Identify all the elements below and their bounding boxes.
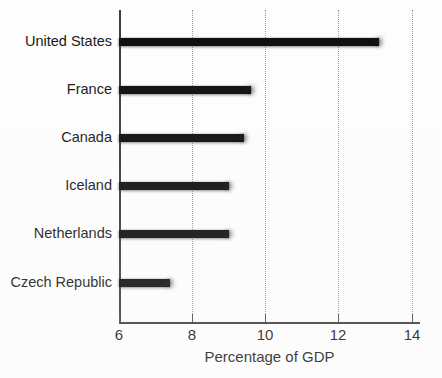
gridline-10 — [265, 10, 267, 322]
x-tick-label-4: 14 — [392, 326, 432, 343]
category-label-czech-republic: Czech Republic — [0, 275, 112, 290]
y-axis-line — [119, 10, 121, 323]
x-axis-title: Percentage of GDP — [119, 348, 420, 365]
x-tick-label-1: 8 — [172, 326, 212, 343]
bar-chart: 6 8 10 12 14 United States France Canada… — [0, 0, 442, 378]
category-label-iceland: Iceland — [0, 178, 112, 193]
x-tick-mark-8 — [192, 314, 193, 322]
bar-czech-republic — [119, 279, 170, 287]
x-tick-mark-12 — [338, 314, 339, 322]
bar-netherlands — [119, 230, 229, 238]
bar-united-states — [119, 38, 379, 46]
gridline-8 — [192, 10, 194, 322]
gridline-14 — [412, 10, 414, 322]
x-tick-label-3: 12 — [318, 326, 358, 343]
x-tick-label-2: 10 — [245, 326, 285, 343]
plot-area: 6 8 10 12 14 United States France Canada… — [0, 0, 442, 378]
x-tick-mark-14 — [412, 314, 413, 322]
bar-france — [119, 86, 251, 94]
category-label-netherlands: Netherlands — [0, 226, 112, 241]
category-label-united-states: United States — [0, 34, 112, 49]
category-label-canada: Canada — [0, 130, 112, 145]
bar-iceland — [119, 182, 229, 190]
category-label-france: France — [0, 82, 112, 97]
x-tick-label-0: 6 — [99, 326, 139, 343]
gridline-12 — [338, 10, 340, 322]
x-axis-line — [119, 322, 420, 324]
x-tick-mark-10 — [265, 314, 266, 322]
bar-canada — [119, 134, 244, 142]
x-tick-mark-6 — [119, 314, 120, 322]
